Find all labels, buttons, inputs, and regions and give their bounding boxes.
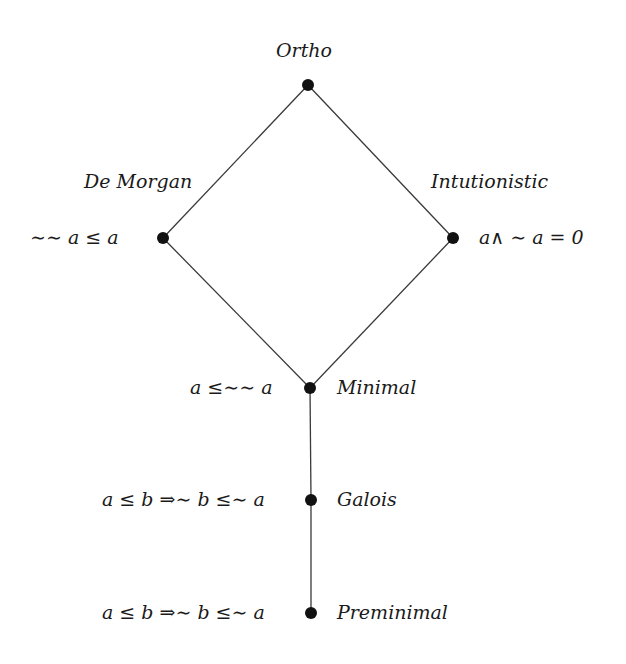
label-intuitionistic: Intutionistic [431,172,548,191]
node-minimal [304,382,316,394]
condition-preminimal: a ≤ b ⇒∼ b ≤∼ a [102,603,265,622]
condition-intuitionistic: a∧ ∼ a = 0 [479,228,584,247]
condition-minimal: a ≤∼∼ a [190,378,273,397]
label-galois: Galois [337,490,397,509]
node-ortho [302,79,314,91]
edge-ortho-demorgan [163,85,308,238]
edge-ortho-intuitionistic [308,85,453,238]
edges [163,85,453,613]
edge-minimal-galois [310,388,311,500]
node-de-morgan [157,232,169,244]
node-intuitionistic [447,232,459,244]
nodes [157,79,459,619]
edge-intuitionistic-minimal [310,238,453,388]
label-minimal: Minimal [337,378,416,397]
edge-demorgan-minimal [163,238,310,388]
label-ortho: Ortho [276,41,332,60]
node-preminimal [305,607,317,619]
condition-galois: a ≤ b ⇒∼ b ≤∼ a [102,490,265,509]
node-galois [305,494,317,506]
label-preminimal: Preminimal [337,603,448,622]
negation-lattice-diagram [0,0,626,664]
label-de-morgan: De Morgan [84,172,192,191]
condition-de-morgan: ∼∼ a ≤ a [30,228,119,247]
